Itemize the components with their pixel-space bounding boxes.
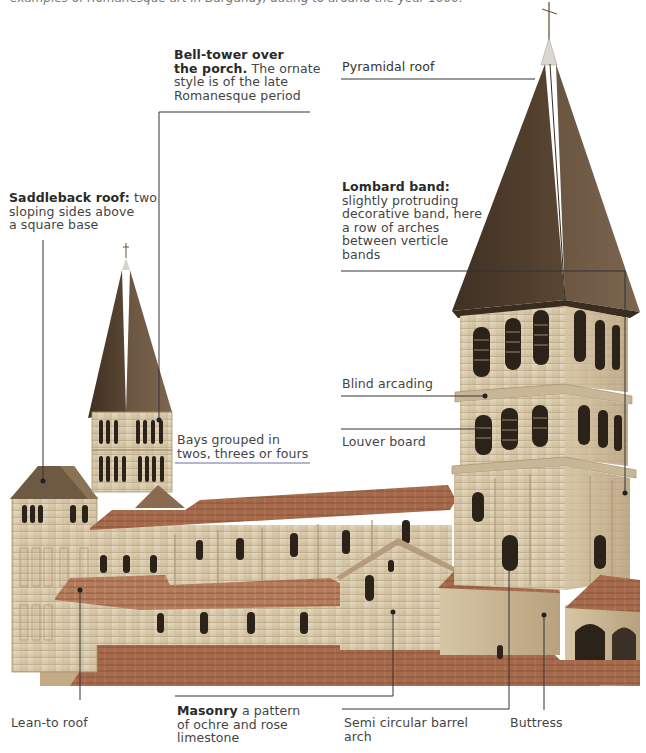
label-masonry-desc-3: limestone [177, 730, 239, 745]
label-bell-tower: Bell-tower over the porch. The ornate st… [174, 48, 321, 102]
label-bell-tower-desc-3: Romanesque period [174, 88, 301, 103]
label-louver-board: Louver board [342, 435, 426, 449]
label-louver-board-text: Louver board [342, 434, 426, 449]
label-buttress: Buttress [510, 716, 563, 730]
label-barrel-arch: Semi circular barrel arch [344, 716, 468, 743]
label-saddleback-roof: Saddleback roof: two sloping sides above… [9, 191, 157, 232]
label-lombard-desc-5: bands [342, 247, 380, 262]
label-blind-arcading-text: Blind arcading [342, 376, 433, 391]
label-bays: Bays grouped in twos, threes or fours [177, 433, 308, 460]
main-bell-tower [452, 2, 640, 686]
label-lean-to-roof: Lean-to roof [11, 716, 88, 730]
small-bell-tower [88, 243, 185, 508]
label-masonry: Masonry a pattern of ochre and rose lime… [177, 704, 300, 745]
label-blind-arcading: Blind arcading [342, 377, 433, 391]
label-buttress-text: Buttress [510, 715, 563, 730]
label-bays-line-2: twos, threes or fours [177, 446, 308, 461]
label-barrel-arch-line-2: arch [344, 729, 372, 744]
label-lean-to-roof-text: Lean-to roof [11, 715, 88, 730]
label-lombard-band: Lombard band: slightly protruding decora… [342, 180, 482, 261]
church-illustration [0, 0, 646, 753]
label-pyramidal-roof-text: Pyramidal roof [342, 59, 434, 74]
label-pyramidal-roof: Pyramidal roof [342, 60, 434, 74]
label-saddleback-desc-3: a square base [9, 217, 98, 232]
